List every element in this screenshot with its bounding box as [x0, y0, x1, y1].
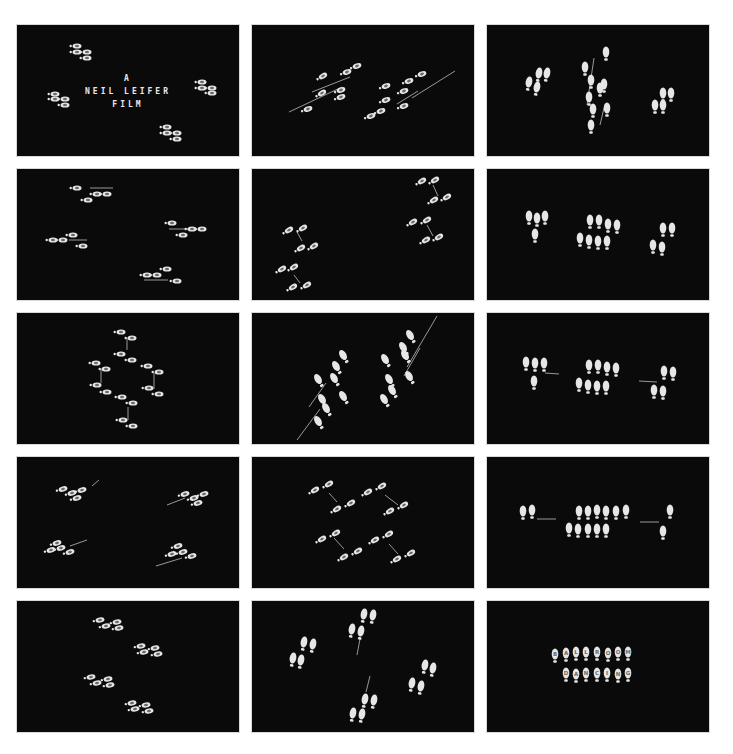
footprint-icon — [404, 329, 417, 345]
step-direction-line — [294, 275, 300, 283]
footprint-icon — [286, 262, 299, 273]
footprint-icon — [595, 360, 602, 374]
footprint-icon — [420, 659, 429, 674]
svg-text:A: A — [574, 671, 579, 677]
footprint-icon — [651, 385, 658, 399]
footprint-icon — [111, 625, 124, 632]
footprints-diagram — [252, 169, 474, 300]
footprint-icon — [175, 548, 188, 556]
svg-text:N: N — [584, 670, 589, 676]
footprint-icon — [348, 707, 357, 722]
panel-7 — [17, 313, 239, 444]
footprint-icon — [165, 220, 177, 225]
footprint-icon — [597, 83, 604, 97]
title-card-line2: NEIL LEIFER — [17, 85, 239, 98]
svg-text:L: L — [574, 649, 578, 655]
footprint-icon — [661, 366, 668, 380]
footprint-icon — [141, 363, 153, 368]
svg-text:N: N — [616, 671, 621, 677]
footprint-icon — [349, 62, 362, 71]
footprint-icon — [170, 542, 183, 550]
footprint-icon — [414, 176, 427, 187]
footprint-icon — [321, 479, 334, 490]
footprint-icon — [147, 645, 160, 652]
footprint-icon — [160, 124, 172, 129]
footprint-icon — [532, 229, 539, 243]
footprint-icon: C — [594, 668, 601, 682]
step-direction-line — [357, 639, 360, 655]
footprint-icon — [299, 280, 312, 291]
footprint-icon — [532, 358, 539, 372]
footprint-icon — [66, 232, 78, 237]
footprint-icon — [531, 376, 538, 390]
footprint-icon — [55, 485, 68, 493]
footprint-icon — [586, 235, 593, 249]
footprint-icon — [414, 70, 427, 79]
footprint-icon — [389, 554, 402, 565]
footprint-icon — [115, 394, 127, 399]
footprint-icon: L — [583, 647, 590, 661]
panel-2 — [252, 25, 474, 156]
footprint-icon — [176, 232, 188, 237]
footprint-icon — [613, 506, 620, 520]
footprint-icon — [56, 237, 68, 242]
footprint-icon: D — [563, 668, 570, 682]
step-direction-line — [389, 544, 398, 554]
footprint-icon — [102, 682, 115, 689]
footprints-diagram — [17, 457, 239, 588]
footprints-diagram — [17, 313, 239, 444]
footprint-icon — [76, 243, 88, 248]
footprint-icon — [431, 232, 444, 243]
step-direction-line — [167, 498, 185, 505]
footprint-icon — [299, 636, 308, 651]
footprint-icon — [541, 358, 548, 372]
footprint-icon — [150, 272, 162, 277]
footprint-icon — [306, 241, 319, 252]
panel-11 — [252, 457, 474, 588]
footprint-icon — [652, 100, 659, 114]
footprint-icon — [80, 49, 92, 54]
footprints-diagram — [487, 25, 709, 156]
panel-3 — [487, 25, 709, 156]
footprint-icon — [669, 223, 676, 237]
footprint-icon — [320, 402, 333, 418]
footprint-icon — [308, 638, 317, 653]
footprint-icon — [603, 381, 610, 395]
footprint-icon — [114, 351, 126, 356]
step-direction-line — [70, 540, 87, 546]
footprint-icon — [285, 282, 298, 293]
step-direction-line — [639, 381, 657, 382]
footprint-icon — [660, 88, 667, 102]
footprint-icon — [367, 535, 380, 546]
footprint-icon — [576, 378, 583, 392]
step-direction-line — [545, 373, 559, 374]
panel-5 — [252, 169, 474, 300]
footprint-icon — [613, 363, 620, 377]
footprint-icon — [89, 360, 101, 365]
svg-text:O: O — [606, 650, 611, 656]
footprint-icon — [439, 192, 452, 203]
footprint-icon — [337, 390, 350, 406]
footprint-icon — [403, 370, 416, 386]
title-card-line3: FILM — [17, 98, 239, 111]
footprint-icon — [523, 357, 530, 371]
panel-8 — [252, 313, 474, 444]
step-direction-line — [366, 676, 370, 692]
footprint-icon — [668, 88, 675, 102]
footprint-icon — [98, 623, 111, 630]
footprints-diagram — [487, 169, 709, 300]
footprint-icon — [588, 120, 595, 134]
footprints-diagram — [252, 25, 474, 156]
footprint-icon — [141, 708, 154, 715]
footprint-icon — [670, 367, 677, 381]
footprint-icon — [109, 619, 122, 626]
footprint-icon — [405, 217, 418, 228]
footprint-icon — [369, 694, 378, 709]
step-direction-line — [297, 232, 302, 241]
panel-9 — [487, 313, 709, 444]
panel-title: ANEIL LEIFERFILM — [17, 25, 239, 156]
title-card-line1: A — [17, 72, 239, 85]
footprint-icon — [401, 77, 414, 86]
step-direction-line — [297, 409, 320, 440]
panel-15: BALLROOMDANCING — [487, 601, 709, 732]
